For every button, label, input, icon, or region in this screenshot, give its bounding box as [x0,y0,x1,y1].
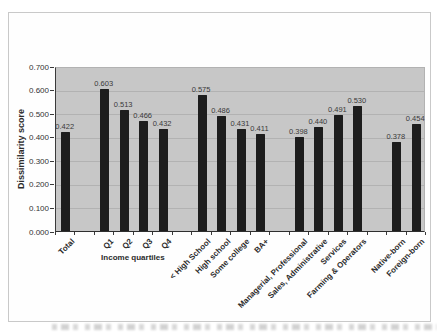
x-axis-group-label: Income quartiles [73,253,193,262]
y-tick-mark [50,208,54,209]
x-tick-mark [94,232,95,235]
x-tick-mark [289,232,290,235]
gridline [56,114,424,115]
x-tick-mark [386,232,387,235]
x-tick-mark [230,232,231,235]
bar [120,110,129,231]
x-tick-mark [74,232,75,235]
bar [100,89,109,231]
bar-value-label: 0.454 [398,114,432,123]
bar [159,129,168,231]
bar [334,115,343,231]
x-tick-mark [113,232,114,235]
x-tick-mark [425,232,426,235]
y-tick-mark [50,232,54,233]
y-tick-mark [50,114,54,115]
x-tick-mark [133,232,134,235]
y-tick-label: 0.300 [11,157,49,166]
bar [217,116,226,231]
bar-value-label: 0.575 [184,85,218,94]
bar [61,132,70,231]
y-tick-mark [50,137,54,138]
bar [198,95,207,231]
y-tick-mark [50,184,54,185]
bar [353,106,362,231]
y-tick-mark [50,90,54,91]
bar [295,137,304,231]
bar-value-label: 0.378 [379,132,413,141]
bar-value-label: 0.398 [281,127,315,136]
bar [256,134,265,231]
bar [237,129,246,231]
bar [392,142,401,231]
x-tick-mark [347,232,348,235]
x-tick-mark [152,232,153,235]
gridline [56,91,424,92]
y-tick-label: 0.100 [11,204,49,213]
bar-value-label: 0.603 [87,79,121,88]
y-tick-mark [50,67,54,68]
bar-value-label: 0.491 [320,105,354,114]
bar [314,127,323,231]
cropped-caption-text [52,324,437,330]
y-tick-mark [50,161,54,162]
y-tick-label: 0.400 [11,133,49,142]
plot-area [55,67,425,232]
bar-value-label: 0.486 [204,106,238,115]
bar [412,124,421,231]
x-tick-mark [172,232,173,235]
y-tick-label: 0.700 [11,63,49,72]
y-tick-label: 0.500 [11,110,49,119]
bar-value-label: 0.513 [106,100,140,109]
x-tick-mark [211,232,212,235]
x-tick-mark [250,232,251,235]
x-tick-mark [308,232,309,235]
x-tick-mark [269,232,270,235]
x-tick-mark [328,232,329,235]
x-tick-mark [367,232,368,235]
y-tick-label: 0.200 [11,180,49,189]
y-tick-label: 0.600 [11,86,49,95]
x-tick-mark [191,232,192,235]
bar-value-label: 0.411 [242,124,276,133]
y-tick-label: 0.000 [11,228,49,237]
x-tick-mark [406,232,407,235]
x-tick-mark [55,232,56,235]
bar-value-label: 0.530 [340,96,374,105]
bar [139,121,148,231]
bar-value-label: 0.422 [48,122,82,131]
bar-value-label: 0.440 [301,117,335,126]
bar-value-label: 0.432 [145,119,179,128]
y-axis-title: Dissimilarity score [16,89,26,209]
